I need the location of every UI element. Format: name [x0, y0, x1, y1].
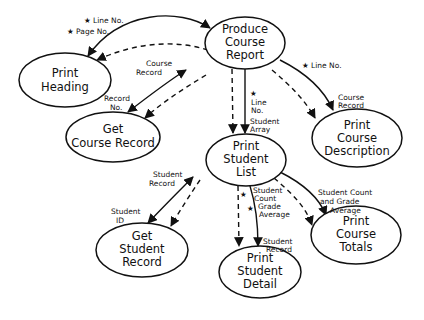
label-student-id-2: ID [116, 216, 124, 225]
label-student-record-detail-2: Record [266, 245, 292, 254]
svg-text:List: List [236, 165, 257, 179]
label-record-no: Record [104, 94, 130, 103]
svg-text:Print: Print [52, 66, 79, 80]
svg-text:Detail: Detail [243, 277, 277, 291]
svg-text:Course: Course [225, 35, 265, 49]
svg-text:Totals: Totals [339, 240, 373, 254]
label-student-count-totals: Student Count [318, 188, 372, 197]
svg-text:Record: Record [122, 255, 162, 269]
edge-studentlist-to-detail-dashed [238, 186, 239, 246]
label-student-record-getstudent-2: Record [149, 179, 175, 188]
label-star-detail-2: ★ [247, 204, 254, 213]
svg-text:Heading: Heading [41, 80, 89, 94]
label-student-count-totals-2: and Grade [320, 197, 360, 206]
svg-text:Course: Course [336, 227, 376, 241]
svg-text:Description: Description [324, 144, 390, 158]
label-course-record-getcourse-2: Record [136, 68, 162, 77]
edge-produce-to-heading-dashed [97, 44, 208, 60]
node-print-heading: Print Heading [19, 53, 111, 107]
edge-studentlist-to-getstudent-dashed [171, 180, 200, 226]
svg-text:Student: Student [223, 152, 269, 166]
node-produce-course-report: Produce Course Report [205, 17, 285, 69]
edge-produce-to-getcourse-dashed [145, 75, 206, 118]
label-star-studentlist: ★ [250, 89, 257, 98]
svg-text:Course Record: Course Record [71, 136, 155, 150]
svg-text:Course: Course [337, 131, 377, 145]
node-print-student-list: Print Student List [206, 134, 286, 186]
node-print-course-description: Print Course Description [312, 109, 402, 167]
label-student-array-2: Array [250, 125, 271, 134]
node-get-student-record: Get Student Record [96, 223, 188, 277]
label-line-no-heading: ★ Line No. [84, 16, 124, 25]
label-student-id: Student [111, 207, 141, 216]
label-star-detail: ★ [240, 190, 247, 199]
label-record-no-2: No. [110, 103, 122, 112]
label-course-record-getcourse: Course [146, 59, 173, 68]
label-student-record-getstudent: Student [153, 170, 183, 179]
edge-produce-to-studentlist-dashed [232, 69, 233, 133]
edge-produce-to-description-dashed [272, 70, 315, 118]
structure-chart: Produce Course Report Print Heading Get … [0, 0, 424, 320]
node-get-course-record: Get Course Record [66, 112, 160, 162]
svg-text:Student: Student [119, 242, 165, 256]
svg-text:Get: Get [132, 229, 153, 243]
label-average-detail: Average [259, 210, 290, 219]
svg-text:Print: Print [233, 139, 260, 153]
svg-text:Print: Print [343, 214, 370, 228]
label-course-record-description-2: Record [338, 101, 364, 110]
svg-text:Report: Report [226, 48, 265, 62]
svg-text:Produce: Produce [222, 22, 268, 36]
svg-text:Student: Student [237, 264, 283, 278]
svg-text:Print: Print [344, 118, 371, 132]
label-student-count-totals-3: Average [330, 206, 361, 215]
label-no-studentlist: No. [251, 106, 263, 115]
label-line-no-description: ★ Line No. [302, 61, 342, 70]
svg-text:Get: Get [103, 122, 124, 136]
label-page-no: ★ Page No. [67, 27, 109, 36]
